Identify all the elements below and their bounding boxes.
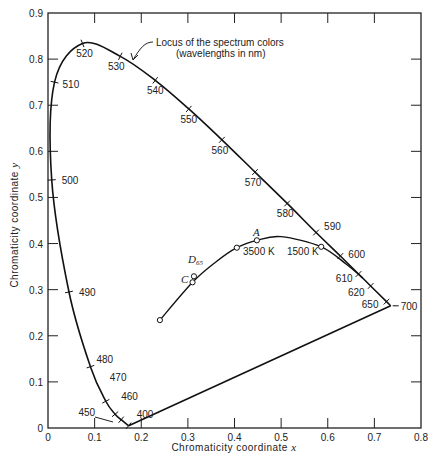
wavelength-label: 600 <box>348 249 365 260</box>
y-tick-label: 0.1 <box>29 377 43 388</box>
cie-chromaticity-diagram: 00.10.20.30.40.50.60.70.800.10.20.30.40.… <box>0 0 439 457</box>
wavelength-label: 650 <box>362 299 379 310</box>
x-axis-title: Chromaticity coordinate x <box>171 441 296 453</box>
plot-border <box>48 13 421 428</box>
illuminant-marker <box>191 274 196 279</box>
curves <box>50 42 390 425</box>
y-tick-label: 0.8 <box>29 54 43 65</box>
illuminant-marker <box>157 318 162 323</box>
label-illuminant-c: C <box>181 273 189 285</box>
wavelength-label: 570 <box>245 177 262 188</box>
tick-labels: 00.10.20.30.40.50.60.70.800.10.20.30.40.… <box>29 8 428 443</box>
illuminant-marker <box>319 244 324 249</box>
y-tick-label: 0.4 <box>29 239 43 250</box>
label-450-pointer <box>95 417 113 422</box>
locus-annotation-line1: Locus of the spectrum colors <box>156 37 284 48</box>
wavelength-label: 530 <box>108 61 125 72</box>
wavelength-marks: 4004504604704804905005105205305405505605… <box>48 40 418 429</box>
wavelength-label: 610 <box>336 273 353 284</box>
y-axis-title: Chromaticity coordinate y <box>8 162 20 287</box>
illuminant-marker <box>190 280 195 285</box>
x-tick-label: 0.1 <box>88 432 102 443</box>
label-3500k: 3500 K <box>243 246 275 257</box>
wavelength-label: 490 <box>79 287 96 298</box>
plot-frame <box>48 13 421 428</box>
y-tick-label: 0 <box>37 423 43 434</box>
wavelength-label: 520 <box>76 48 93 59</box>
wavelength-label: 560 <box>212 145 229 156</box>
wavelength-label: 510 <box>63 79 80 90</box>
label-illuminant-a: A <box>252 226 260 238</box>
y-tick-label: 0.7 <box>29 100 43 111</box>
illuminant-marker <box>234 245 239 250</box>
wavelength-label: 590 <box>324 221 341 232</box>
wavelength-label: 450 <box>79 407 96 418</box>
x-tick-label: 0.8 <box>414 432 428 443</box>
wavelength-label: 620 <box>348 287 365 298</box>
y-tick-label: 0.2 <box>29 331 43 342</box>
illuminant-marker <box>254 238 259 243</box>
y-tick-label: 0.9 <box>29 8 43 19</box>
locus-annotation-line2: (wavelengths in nm) <box>176 48 265 59</box>
axis-ticks <box>48 13 421 428</box>
x-tick-label: 0.7 <box>367 432 381 443</box>
wavelength-label: 460 <box>121 391 138 402</box>
wavelength-label: 400 <box>137 409 154 420</box>
x-tick-label: 0.6 <box>321 432 335 443</box>
x-tick-label: 0 <box>45 432 51 443</box>
y-tick-label: 0.6 <box>29 146 43 157</box>
wavelength-label: 480 <box>96 354 113 365</box>
spectrum-locus-curve <box>50 42 390 425</box>
wavelength-label: 470 <box>110 372 127 383</box>
label-illuminant-d65: D65 <box>187 253 203 267</box>
label-1500k: 1500 K <box>287 246 319 257</box>
wavelength-label: 700 <box>401 301 418 312</box>
y-tick-label: 0.3 <box>29 285 43 296</box>
wavelength-label: 540 <box>147 85 164 96</box>
wavelength-label: 500 <box>62 175 79 186</box>
wavelength-label: 550 <box>180 114 197 125</box>
purple-line <box>129 306 391 426</box>
x-tick-label: 0.2 <box>134 432 148 443</box>
wavelength-label: 580 <box>277 208 294 219</box>
y-tick-label: 0.5 <box>29 192 43 203</box>
